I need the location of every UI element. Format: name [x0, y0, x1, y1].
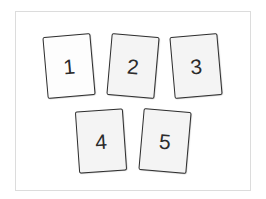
card-label: 5 [158, 130, 171, 152]
card-label: 4 [94, 130, 107, 152]
card-label: 2 [126, 55, 139, 77]
card-4: 4 [75, 108, 127, 173]
card-1: 1 [42, 33, 95, 99]
card-2: 2 [106, 33, 159, 99]
card-label: 3 [189, 55, 202, 77]
card-3: 3 [169, 33, 222, 99]
card-label: 1 [62, 55, 75, 77]
card-5: 5 [138, 108, 191, 174]
